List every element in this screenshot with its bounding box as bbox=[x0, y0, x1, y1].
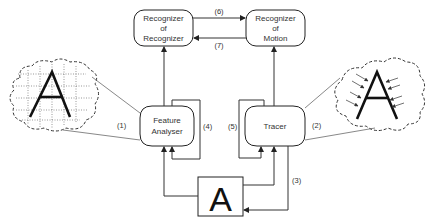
node-tracer: Tracer bbox=[245, 106, 305, 146]
node-label-line2: of bbox=[160, 24, 167, 33]
edge-stimulus-to-tracer bbox=[243, 147, 274, 185]
node-label-line3: Motion bbox=[263, 34, 287, 43]
edge-label-7: (7) bbox=[214, 41, 224, 50]
edge-label-1: (1) bbox=[117, 121, 127, 130]
node-label-line1: Recognizer bbox=[255, 14, 296, 23]
node-stimulus: A bbox=[198, 177, 243, 218]
cloud-left-feature-grid bbox=[10, 59, 99, 131]
edge-label-6: (6) bbox=[214, 7, 224, 16]
node-label-line2: Analyser bbox=[151, 127, 182, 136]
edge-label-3: (3) bbox=[292, 176, 302, 185]
edge-2: (2) bbox=[305, 78, 375, 140]
edge-stimulus-to-feature bbox=[164, 147, 198, 196]
letter-a-traced bbox=[357, 72, 397, 119]
node-label-line1: Recognizer bbox=[143, 14, 184, 23]
edge-6: (6) bbox=[193, 7, 245, 18]
node-recognizer-of-recognizer: Recognizer of Recognizer bbox=[134, 10, 193, 46]
edge-label-4: (4) bbox=[203, 122, 213, 131]
node-label-line2: of bbox=[272, 24, 279, 33]
edge-1: (1) bbox=[63, 77, 140, 140]
node-label-line3: Recognizer bbox=[143, 34, 184, 43]
diagram-canvas: Recognizer of Recognizer Recognizer of M… bbox=[0, 0, 431, 223]
node-feature-analyser: Feature Analyser bbox=[140, 106, 194, 146]
edge-label-2: (2) bbox=[312, 121, 322, 130]
edge-label-5: (5) bbox=[228, 122, 238, 131]
node-label-line1: Feature bbox=[153, 116, 181, 125]
edge-7: (7) bbox=[194, 38, 246, 50]
node-recognizer-of-motion: Recognizer of Motion bbox=[246, 10, 305, 46]
cloud-right-motion-arrows bbox=[335, 58, 425, 131]
stimulus-letter: A bbox=[209, 180, 232, 218]
edge-3: (3) bbox=[244, 146, 302, 210]
node-label-line1: Tracer bbox=[264, 122, 287, 131]
